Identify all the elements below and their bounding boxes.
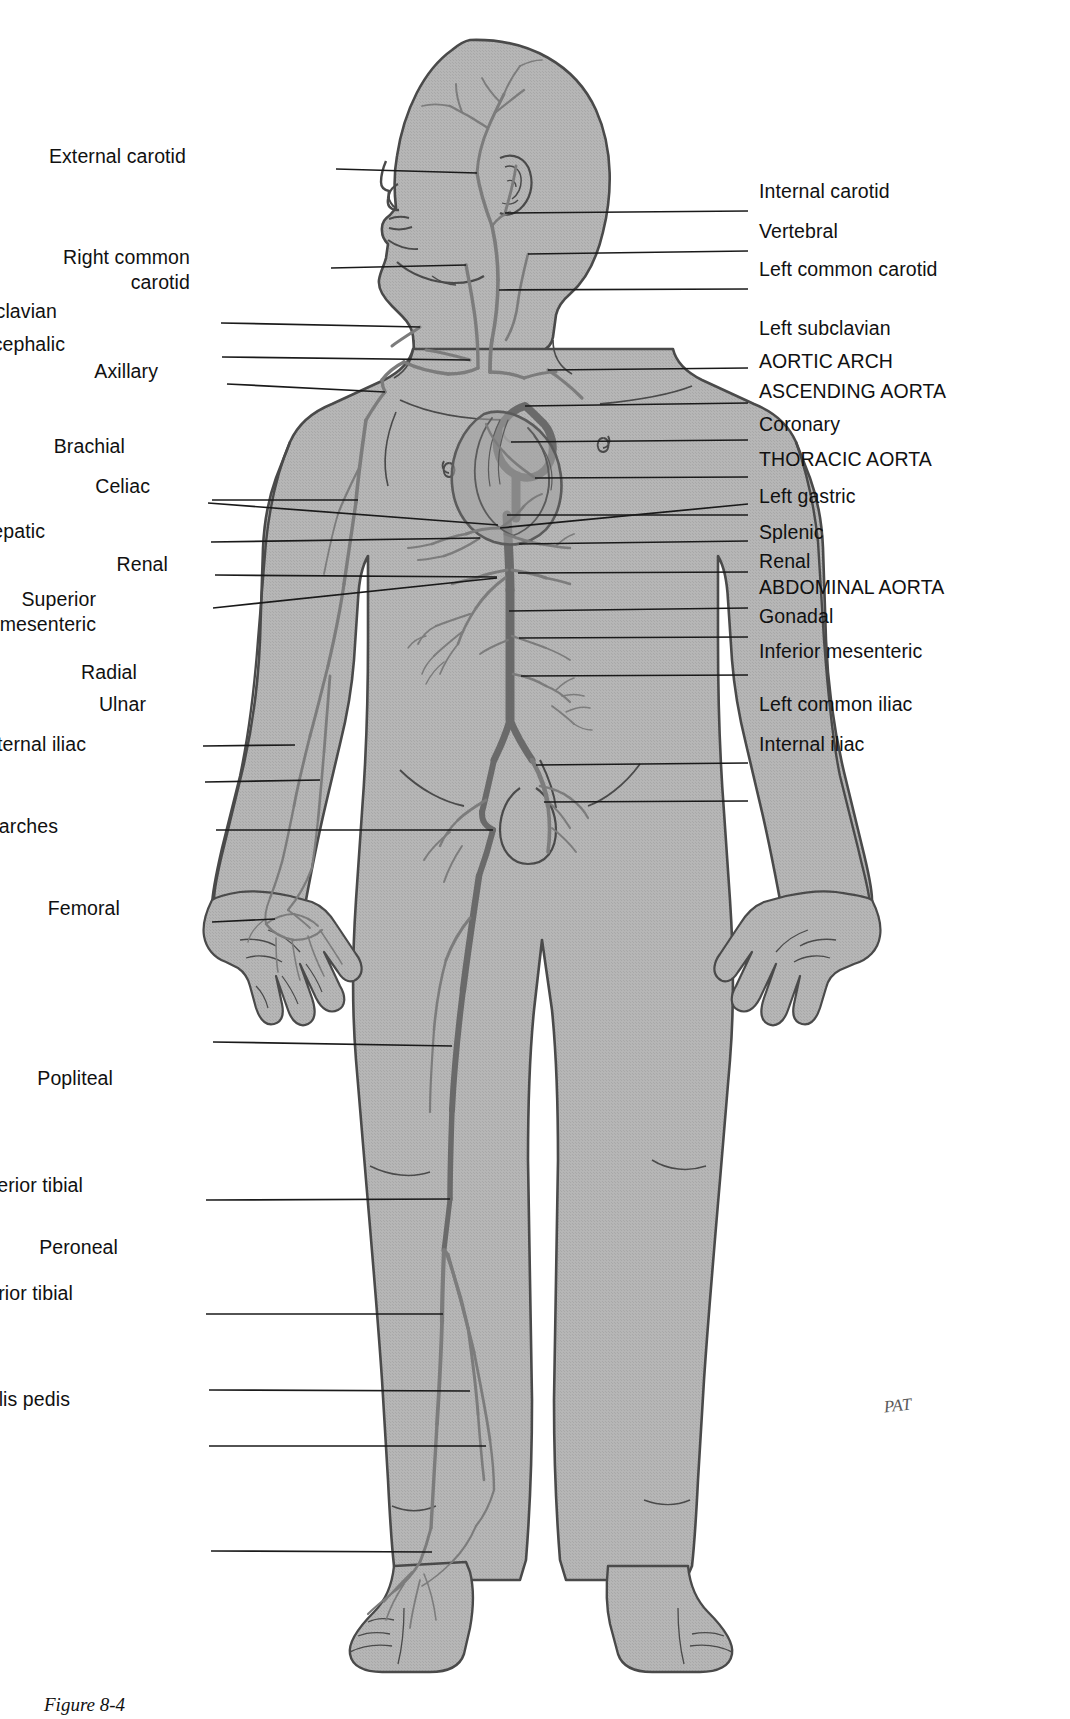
label-line: Renal bbox=[117, 552, 168, 577]
label-peroneal: Peroneal bbox=[39, 1235, 118, 1260]
label-line: THORACIC AORTA bbox=[759, 447, 932, 472]
label-internal-carotid: Internal carotid bbox=[759, 179, 890, 204]
leader-line-internal-iliac bbox=[544, 801, 748, 802]
label-ulnar: Ulnar bbox=[99, 692, 146, 717]
label-line: Gonadal bbox=[759, 604, 833, 629]
label-line: Left common iliac bbox=[759, 692, 912, 717]
label-line: Ulnar bbox=[99, 692, 146, 717]
leader-line-axillary bbox=[227, 384, 385, 392]
label-popliteal: Popliteal bbox=[37, 1066, 113, 1091]
label-axillary: Axillary bbox=[94, 359, 158, 384]
label-line: Brachiocephalic bbox=[0, 332, 65, 357]
label-palmar-arches: Palmar arches bbox=[0, 814, 58, 839]
label-posterior-tibial: Posterior tibial bbox=[0, 1281, 73, 1306]
leader-line-radial bbox=[203, 745, 295, 746]
label-dorsalis-pedis: Dorsalis pedis bbox=[0, 1387, 70, 1412]
label-line: Right common bbox=[63, 245, 190, 270]
label-common-hepatic: Common hepatic bbox=[0, 519, 45, 544]
label-thoracic-aorta: THORACIC AORTA bbox=[759, 447, 932, 472]
label-vertebral: Vertebral bbox=[759, 219, 838, 244]
figure-page: External carotidRight commoncarotidRight… bbox=[0, 0, 1070, 1719]
label-left-common-carotid: Left common carotid bbox=[759, 257, 938, 282]
label-renal-right-label: Renal bbox=[759, 549, 810, 574]
label-ascending-aorta: ASCENDING AORTA bbox=[759, 379, 946, 404]
label-line: Internal carotid bbox=[759, 179, 890, 204]
label-line: Peroneal bbox=[39, 1235, 118, 1260]
label-right-subclavian: Right subclavian bbox=[0, 299, 57, 324]
label-line: Dorsalis pedis bbox=[0, 1387, 70, 1412]
label-line: Left common carotid bbox=[759, 257, 938, 282]
label-line: Axillary bbox=[94, 359, 158, 384]
label-line: Brachial bbox=[54, 434, 125, 459]
label-abdominal-aorta: ABDOMINAL AORTA bbox=[759, 575, 944, 600]
label-inferior-mesenteric: Inferior mesenteric bbox=[759, 639, 922, 664]
label-anterior-tibial: Anterior tibial bbox=[0, 1173, 83, 1198]
label-line: Coronary bbox=[759, 412, 840, 437]
artist-signature: PAT bbox=[883, 1395, 912, 1418]
label-line: Posterior tibial bbox=[0, 1281, 73, 1306]
figure-caption: Figure 8-4 bbox=[44, 1694, 125, 1716]
leader-line-right-subclavian bbox=[221, 323, 420, 327]
label-line: Common hepatic bbox=[0, 519, 45, 544]
label-line: Anterior tibial bbox=[0, 1173, 83, 1198]
label-line: Palmar arches bbox=[0, 814, 58, 839]
label-line: Right subclavian bbox=[0, 299, 57, 324]
figure-caption-text: Figure 8-4 bbox=[44, 1694, 125, 1715]
label-superior-mesenteric: Superiormesenteric bbox=[0, 587, 96, 637]
label-line: Superior bbox=[0, 587, 96, 612]
leader-line-gonadal bbox=[519, 637, 748, 638]
label-brachial: Brachial bbox=[54, 434, 125, 459]
label-coronary: Coronary bbox=[759, 412, 840, 437]
label-line: Renal bbox=[759, 549, 810, 574]
label-internal-iliac: Internal iliac bbox=[759, 732, 864, 757]
label-gonadal: Gonadal bbox=[759, 604, 833, 629]
label-line: Femoral bbox=[48, 896, 120, 921]
label-left-subclavian: Left subclavian bbox=[759, 316, 891, 341]
label-line: Left gastric bbox=[759, 484, 856, 509]
label-line: Radial bbox=[81, 660, 137, 685]
label-brachiocephalic: Brachiocephalic bbox=[0, 332, 65, 357]
leader-line-left-common-carotid bbox=[499, 289, 748, 290]
human-body-silhouette bbox=[203, 40, 880, 1672]
label-external-carotid: External carotid bbox=[49, 144, 186, 169]
label-left-common-iliac: Left common iliac bbox=[759, 692, 912, 717]
label-line: Celiac bbox=[95, 474, 150, 499]
label-line: AORTIC ARCH bbox=[759, 349, 893, 374]
leader-line-peroneal bbox=[209, 1390, 470, 1391]
label-radial: Radial bbox=[81, 660, 137, 685]
label-line: Internal iliac bbox=[759, 732, 864, 757]
label-right-common-carotid: Right commoncarotid bbox=[63, 245, 190, 295]
leader-line-popliteal bbox=[206, 1199, 450, 1200]
label-line: mesenteric bbox=[0, 612, 96, 637]
leader-line-inferior-mesenteric bbox=[521, 675, 748, 676]
label-renal-left-label: Renal bbox=[117, 552, 168, 577]
label-external-iliac: External iliac bbox=[0, 732, 86, 757]
label-celiac: Celiac bbox=[95, 474, 150, 499]
label-line: Left subclavian bbox=[759, 316, 891, 341]
leader-line-dorsalis-pedis bbox=[211, 1551, 432, 1552]
label-aortic-arch: AORTIC ARCH bbox=[759, 349, 893, 374]
label-line: External carotid bbox=[49, 144, 186, 169]
label-splenic: Splenic bbox=[759, 520, 824, 545]
leader-line-coronary bbox=[535, 477, 748, 478]
label-femoral: Femoral bbox=[48, 896, 120, 921]
label-line: Splenic bbox=[759, 520, 824, 545]
label-left-gastric: Left gastric bbox=[759, 484, 856, 509]
label-line: Popliteal bbox=[37, 1066, 113, 1091]
leader-line-renal-right-label bbox=[518, 572, 748, 573]
label-line: External iliac bbox=[0, 732, 86, 757]
label-line: carotid bbox=[63, 270, 190, 295]
label-line: ABDOMINAL AORTA bbox=[759, 575, 944, 600]
label-line: ASCENDING AORTA bbox=[759, 379, 946, 404]
label-line: Inferior mesenteric bbox=[759, 639, 922, 664]
label-line: Vertebral bbox=[759, 219, 838, 244]
